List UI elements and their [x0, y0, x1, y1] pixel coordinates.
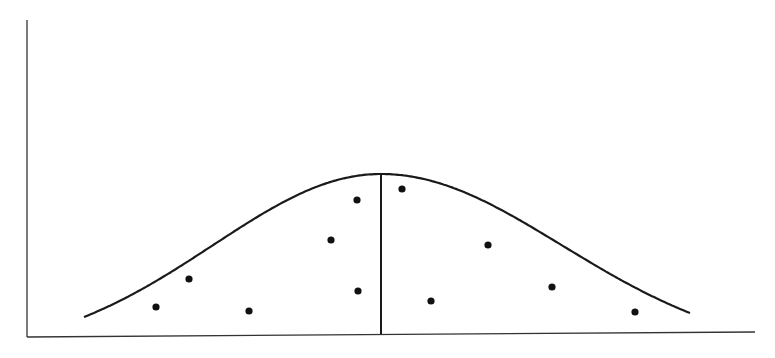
x-axis [27, 332, 755, 337]
data-point [354, 287, 361, 294]
data-point [353, 196, 360, 203]
data-point [245, 307, 252, 314]
data-point [427, 297, 434, 304]
scatter-points [152, 185, 638, 315]
data-point [398, 185, 405, 192]
data-point [484, 241, 491, 248]
bell-curve [84, 174, 690, 317]
data-point [327, 236, 334, 243]
data-point [152, 303, 159, 310]
data-point [185, 275, 192, 282]
bell-curve-diagram [0, 0, 775, 358]
data-point [631, 308, 638, 315]
data-point [548, 283, 555, 290]
